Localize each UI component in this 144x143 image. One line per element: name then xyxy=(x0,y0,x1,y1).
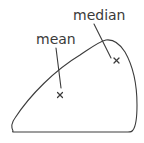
mean-label: mean xyxy=(36,31,76,47)
mean-pointer-line xyxy=(56,48,61,88)
distribution-outline xyxy=(12,40,137,132)
median-label: median xyxy=(73,7,125,23)
median-pointer-line xyxy=(94,24,111,58)
mean-marker-icon xyxy=(58,93,63,98)
distribution-diagram: median mean xyxy=(0,0,144,143)
median-marker-icon xyxy=(114,58,119,63)
